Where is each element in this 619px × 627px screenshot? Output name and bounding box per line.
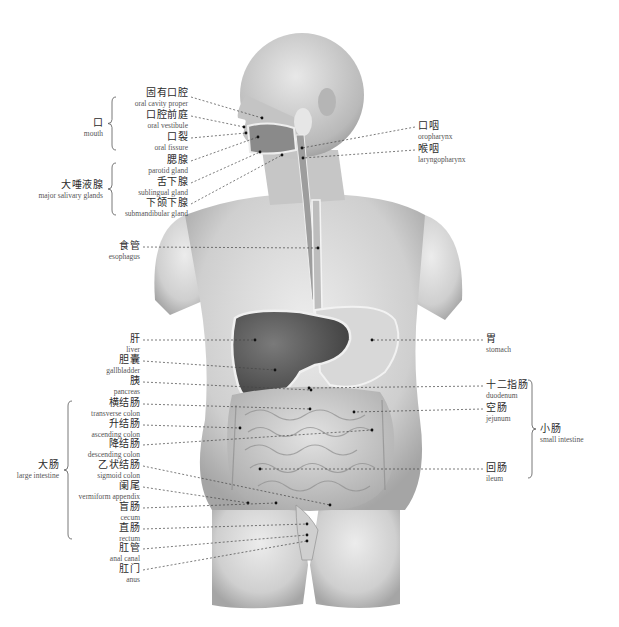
group-zh: 口 <box>84 118 103 128</box>
label-oral-fissure: 口裂 oral fissure <box>154 132 188 151</box>
label-en: oral vestibule <box>146 122 188 130</box>
target-dot <box>317 247 320 250</box>
target-dot <box>306 523 309 526</box>
label-en: anal canal <box>110 555 140 563</box>
label-zh: 降结肠 <box>88 439 140 449</box>
label-zh: 口咽 <box>418 121 453 131</box>
label-en: sublingual gland <box>138 189 188 197</box>
label-zh: 直肠 <box>119 523 140 533</box>
label-zh: 食管 <box>109 241 140 251</box>
brace <box>108 97 116 150</box>
label-pancreas: 胰 pancreas <box>114 376 140 395</box>
label-oropharynx: 口咽 oropharynx <box>418 121 453 140</box>
label-ileum: 回肠 ileum <box>486 463 507 482</box>
leader-line <box>191 116 244 127</box>
group-zh: 小肠 <box>540 424 584 434</box>
label-zh: 空肠 <box>486 403 511 413</box>
label-anus: 肛门 anus <box>119 564 140 583</box>
label-sigmoid-colon: 乙状结肠 sigmoid colon <box>97 460 140 479</box>
leader-line <box>191 137 258 161</box>
group-zh: 大唾液腺 <box>38 180 103 190</box>
label-ascending-colon: 升结肠 ascending colon <box>91 419 140 438</box>
target-dot <box>275 502 278 505</box>
group-label-large-intestine: 大肠 large intestine <box>17 460 59 479</box>
label-esophagus: 食管 esophagus <box>109 241 140 260</box>
label-zh: 肝 <box>126 334 140 344</box>
label-en: stomach <box>486 346 511 354</box>
label-descending-colon: 降结肠 descending colon <box>88 439 140 458</box>
label-zh: 喉咽 <box>418 144 466 154</box>
label-zh: 固有口腔 <box>135 88 188 98</box>
label-en: ascending colon <box>91 431 140 439</box>
group-en: major salivary glands <box>38 192 103 200</box>
brace <box>64 401 72 539</box>
group-en: small intestine <box>540 436 584 444</box>
label-zh: 回肠 <box>486 463 507 473</box>
label-zh: 口裂 <box>154 132 188 142</box>
digestive-system-diagram: 固有口腔 oral cavity proper 口腔前庭 oral vestib… <box>0 0 619 627</box>
label-rectum: 直肠 rectum <box>119 523 140 542</box>
target-dot <box>274 369 277 372</box>
label-zh: 阑尾 <box>79 481 140 491</box>
target-dot <box>302 157 305 160</box>
label-en: esophagus <box>109 253 140 261</box>
label-en: oral fissure <box>154 144 188 152</box>
label-parotid-gland: 腮腺 parotid gland <box>148 155 188 174</box>
label-oral-cavity-proper: 固有口腔 oral cavity proper <box>135 88 188 107</box>
label-liver: 肝 liver <box>126 334 140 353</box>
label-zh: 胃 <box>486 334 511 344</box>
label-en: submandibular gland <box>125 210 188 218</box>
label-jejunum: 空肠 jejunum <box>486 403 511 422</box>
target-dot <box>306 534 309 537</box>
label-zh: 舌下腺 <box>138 177 188 187</box>
target-dot <box>261 117 264 120</box>
label-laryngopharynx: 喉咽 laryngopharynx <box>418 144 466 163</box>
label-en: jejunum <box>486 415 511 423</box>
target-dot <box>257 136 260 139</box>
target-dot <box>254 339 257 342</box>
target-dot <box>281 154 284 157</box>
label-en: duodenum <box>486 392 528 400</box>
label-en: laryngopharynx <box>418 156 466 164</box>
target-dot <box>301 147 304 150</box>
label-gallbladder: 胆囊 gallbladder <box>106 355 140 374</box>
label-anal-canal: 肛管 anal canal <box>110 543 140 562</box>
anatomical-illustration <box>0 0 619 627</box>
target-dot <box>308 387 311 390</box>
target-dot <box>306 540 309 543</box>
esophagus-shape <box>312 200 322 312</box>
label-sublingual-gland: 舌下腺 sublingual gland <box>138 177 188 196</box>
label-cecum: 盲肠 cecum <box>119 502 140 521</box>
group-en: large intestine <box>17 472 59 480</box>
label-en: anus <box>119 576 140 584</box>
target-dot <box>239 427 242 430</box>
label-zh: 盲肠 <box>119 502 140 512</box>
target-dot <box>259 468 262 471</box>
label-en: oral cavity proper <box>135 100 188 108</box>
label-submandibular-gland: 下颌下腺 submandibular gland <box>125 198 188 217</box>
target-dot <box>245 132 248 135</box>
label-en: descending colon <box>88 451 140 459</box>
target-dot <box>329 504 332 507</box>
label-en: gallbladder <box>106 367 140 375</box>
group-label-major-salivary-glands: 大唾液腺 major salivary glands <box>38 180 103 199</box>
target-dot <box>371 429 374 432</box>
label-en: vermiform appendix <box>79 493 140 501</box>
target-dot <box>371 339 374 342</box>
leader-line <box>191 133 246 138</box>
label-zh: 肛管 <box>110 543 140 553</box>
label-vermiform-appendix: 阑尾 vermiform appendix <box>79 481 140 500</box>
label-zh: 肛门 <box>119 564 140 574</box>
brace <box>528 380 536 478</box>
label-zh: 乙状结肠 <box>97 460 140 470</box>
label-en: transverse colon <box>91 410 140 418</box>
label-zh: 十二指肠 <box>486 380 528 390</box>
target-dot <box>309 408 312 411</box>
label-en: liver <box>126 346 140 354</box>
label-zh: 胆囊 <box>106 355 140 365</box>
label-en: ileum <box>486 475 507 483</box>
target-dot <box>353 411 356 414</box>
target-dot <box>259 151 262 154</box>
label-zh: 升结肠 <box>91 419 140 429</box>
label-zh: 腮腺 <box>148 155 188 165</box>
